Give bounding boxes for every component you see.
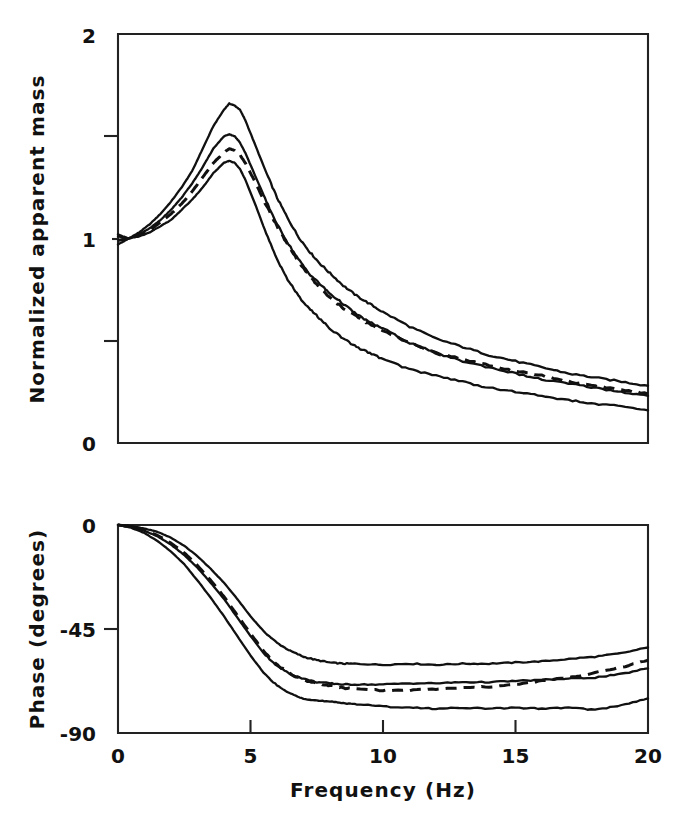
bottom-ylabel-minus45: -45 xyxy=(60,618,96,642)
bottom-ylabel-0: 0 xyxy=(82,514,96,538)
x-tick-label-20: 20 xyxy=(634,744,662,768)
x-axis-ticks xyxy=(251,720,516,733)
bottom-ylabel-minus90: -90 xyxy=(60,722,96,746)
bottom-panel-curves xyxy=(118,525,648,710)
x-tick-label-15: 15 xyxy=(502,744,530,768)
x-axis-tick-labels: 05101520 xyxy=(111,744,662,768)
x-tick-label-10: 10 xyxy=(369,744,397,768)
top-panel: 2 1 0 Normalized apparent mass xyxy=(25,24,648,456)
figure-container: 2 1 0 Normalized apparent mass 0 -45 -90… xyxy=(0,0,685,817)
x-tick-label-0: 0 xyxy=(111,744,125,768)
top-ylabel-1: 1 xyxy=(82,228,96,252)
curve-upper-bound xyxy=(118,103,648,385)
top-ylabel-2: 2 xyxy=(82,24,96,48)
curve-middle-bound xyxy=(118,525,648,685)
top-panel-curves xyxy=(118,103,648,410)
x-tick-label-5: 5 xyxy=(244,744,258,768)
top-panel-y-axis-title: Normalized apparent mass xyxy=(25,74,49,403)
x-axis-title: Frequency (Hz) xyxy=(290,778,476,802)
bottom-panel: 0 -45 -90 Phase (degrees) 05101520 Frequ… xyxy=(25,514,662,802)
top-ylabel-0: 0 xyxy=(82,432,96,456)
bottom-panel-y-axis-title: Phase (degrees) xyxy=(25,529,49,730)
curve-mean-model- xyxy=(118,149,648,394)
apparent-mass-figure: 2 1 0 Normalized apparent mass 0 -45 -90… xyxy=(0,0,685,817)
curve-lower-bound xyxy=(118,525,648,710)
curve-middle-bound xyxy=(118,134,648,396)
curve-upper-bound xyxy=(118,525,648,665)
top-panel-frame xyxy=(118,34,648,443)
